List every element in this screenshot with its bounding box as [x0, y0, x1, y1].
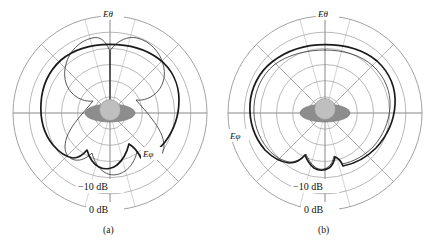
antenna-marker-a — [85, 100, 135, 123]
label-etheta-a: Eθ — [102, 9, 113, 19]
label-etheta-b: Eθ — [317, 9, 328, 19]
label-minus-ten-db-b: −10 dB — [293, 181, 323, 192]
antenna-marker-b — [300, 99, 350, 123]
caption-b: (b) — [318, 225, 329, 236]
caption-a: (a) — [103, 225, 114, 236]
label-minus-ten-db-a: −10 dB — [78, 181, 108, 192]
polar-chart-a: Eθ Eφ −10 dB 0 dB (a) — [0, 0, 216, 243]
polar-plot-panel-a: Eθ Eφ −10 dB 0 dB (a) — [0, 0, 216, 243]
polar-chart-b: Eθ Eφ −10 dB 0 dB (b) — [216, 0, 432, 243]
label-zero-db-b: 0 dB — [304, 204, 324, 215]
figure-radiation-patterns: Eθ Eφ −10 dB 0 dB (a) — [0, 0, 432, 243]
label-ephi-b: Eφ — [229, 131, 240, 141]
label-zero-db-a: 0 dB — [89, 204, 109, 215]
polar-plot-panel-b: Eθ Eφ −10 dB 0 dB (b) — [216, 0, 432, 243]
label-ephi-a: Eφ — [142, 149, 153, 159]
